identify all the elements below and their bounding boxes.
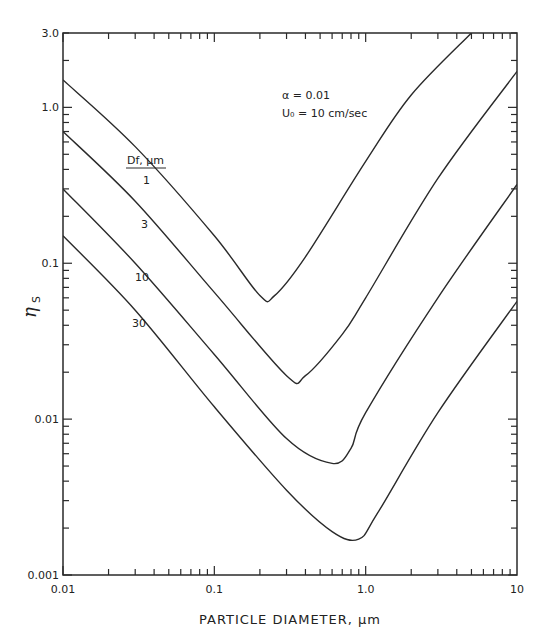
svg-text:η: η [19,306,40,318]
curve-label-df-1: 1 [143,174,150,187]
chart-canvas: 0.010.11.0100.0010.010.11.03.0 131030 α … [0,0,546,638]
x-tick-label: 0.01 [51,583,76,596]
curve-label-df-10: 10 [135,271,149,284]
annotation-alpha: α = 0.01 [282,89,330,102]
legend-title: Df, µm [127,154,164,167]
x-tick-label: 0.1 [206,583,224,596]
y-tick-label: 0.001 [28,569,60,582]
y-tick-label: 3.0 [42,27,60,40]
y-tick-label: 0.1 [42,257,60,270]
x-tick-label: 10 [510,583,524,596]
y-tick-label: 1.0 [42,101,60,114]
annotation-velocity: U₀ = 10 cm/sec [282,107,367,120]
svg-text:S: S [30,295,43,303]
y-tick-label: 0.01 [35,413,60,426]
axis-tick-labels: 0.010.11.0100.0010.010.11.03.0 [28,27,525,596]
x-axis-title: PARTICLE DIAMETER, µm [199,612,381,627]
y-axis-title: η S [19,295,43,318]
x-tick-label: 1.0 [357,583,375,596]
curve-labels: 131030 [132,174,150,330]
curve-df-1 [63,33,471,302]
curve-label-df-30: 30 [132,317,146,330]
curve-label-df-3: 3 [141,218,148,231]
